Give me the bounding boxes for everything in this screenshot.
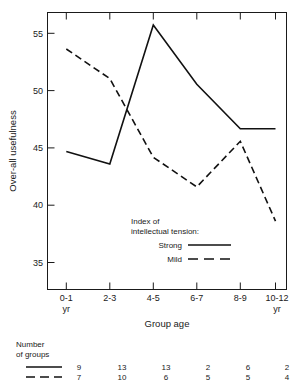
chart-svg: 55 50 45 40 35 Over-all usefulness 0-1: [0, 0, 299, 389]
legend-label-strong: Strong: [158, 241, 182, 250]
y-axis-title: Over-all usefulness: [7, 110, 18, 192]
legend-title-line2: intellectual tension:: [131, 227, 199, 236]
footer-cell: 2: [285, 363, 290, 372]
footer-group-counts: Number of groups 9 13 13 2 6 2 7 10 6 5 …: [16, 340, 290, 382]
footer-cell: 6: [246, 363, 251, 372]
footer-cell: 10: [118, 373, 127, 382]
x-tick-label: 0-1: [60, 293, 73, 303]
x-axis-tick-labels: 0-1 2-3 4-5 6-7 8-9 10-12 yr yr: [60, 293, 289, 314]
footer-cell: 6: [164, 373, 169, 382]
footer-cell: 5: [206, 373, 211, 382]
x-tick-label: 8-9: [234, 293, 247, 303]
footer-cell: 4: [285, 373, 290, 382]
x-tick-label: 4-5: [147, 293, 160, 303]
x-axis-title: Group age: [145, 318, 190, 329]
x-tick-unit-first: yr: [63, 304, 71, 314]
footer-cell: 13: [118, 363, 127, 372]
series-line-mild: [66, 49, 275, 221]
footer-title-line1: Number: [16, 340, 45, 349]
legend-label-mild: Mild: [167, 255, 182, 264]
footer-cell: 5: [246, 373, 251, 382]
footer-cell: 2: [206, 363, 211, 372]
x-tick-label: 2-3: [103, 293, 116, 303]
x-tick-unit-last: yr: [273, 304, 281, 314]
footer-cell: 9: [77, 363, 82, 372]
y-axis-ticks: [48, 33, 55, 262]
legend-title-line1: Index of: [131, 217, 160, 226]
series-line-strong: [66, 25, 275, 164]
y-axis-tick-labels: 55 50 45 40 35: [33, 29, 43, 268]
footer-cell: 7: [77, 373, 82, 382]
y-tick-label: 45: [33, 143, 43, 153]
footer-cell: 13: [162, 363, 171, 372]
footer-row-strong: 9 13 13 2 6 2: [77, 363, 290, 372]
y-tick-label: 40: [33, 200, 43, 210]
footer-title-line2: of groups: [16, 350, 49, 359]
chart-legend: Index of intellectual tension: Strong Mi…: [131, 217, 231, 264]
x-tick-label: 10-12: [265, 293, 288, 303]
x-tick-label: 6-7: [190, 293, 203, 303]
y-tick-label: 55: [33, 29, 43, 39]
y-tick-label: 35: [33, 258, 43, 268]
y-tick-label: 50: [33, 86, 43, 96]
footer-row-mild: 7 10 6 5 5 4: [77, 373, 290, 382]
chart-figure: 55 50 45 40 35 Over-all usefulness 0-1: [0, 0, 299, 389]
